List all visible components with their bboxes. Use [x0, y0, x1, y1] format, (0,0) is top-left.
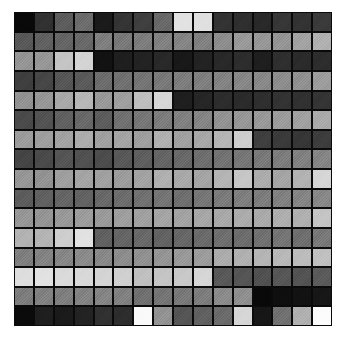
heatmap-cell — [234, 268, 252, 286]
heatmap-cell — [154, 170, 172, 188]
heatmap-cell — [174, 170, 192, 188]
heatmap-cell — [293, 52, 311, 70]
heatmap-cell — [95, 131, 113, 149]
heatmap-cell — [154, 150, 172, 168]
heatmap-cell — [313, 268, 331, 286]
heatmap-cell — [55, 209, 73, 227]
heatmap-cell — [214, 229, 232, 247]
heatmap-cell — [15, 170, 33, 188]
heatmap-cell — [75, 92, 93, 110]
heatmap-cell — [273, 111, 291, 129]
heatmap-cell — [75, 111, 93, 129]
heatmap-cell — [273, 307, 291, 325]
heatmap-cell — [15, 52, 33, 70]
heatmap-cell — [254, 190, 272, 208]
heatmap-cell — [114, 52, 132, 70]
heatmap-cell — [273, 170, 291, 188]
heatmap-cell — [273, 229, 291, 247]
heatmap-cell — [154, 268, 172, 286]
heatmap-cell — [313, 209, 331, 227]
heatmap-cell — [254, 52, 272, 70]
heatmap-cell — [273, 288, 291, 306]
heatmap-cell — [174, 92, 192, 110]
heatmap-cell — [194, 92, 212, 110]
heatmap-cell — [214, 307, 232, 325]
heatmap-cell — [254, 288, 272, 306]
heatmap-cell — [15, 72, 33, 90]
heatmap-cell — [293, 92, 311, 110]
heatmap-cell — [234, 209, 252, 227]
heatmap-cell — [55, 111, 73, 129]
heatmap-cell — [95, 307, 113, 325]
heatmap-cell — [273, 209, 291, 227]
heatmap-cell — [293, 111, 311, 129]
heatmap-cell — [214, 268, 232, 286]
heatmap-cell — [214, 190, 232, 208]
heatmap-cell — [55, 170, 73, 188]
heatmap-cell — [154, 249, 172, 267]
heatmap-cell — [75, 288, 93, 306]
heatmap-cell — [134, 33, 152, 51]
heatmap-cell — [254, 229, 272, 247]
heatmap-cell — [55, 307, 73, 325]
heatmap-cell — [134, 229, 152, 247]
heatmap-cell — [214, 33, 232, 51]
heatmap-cell — [214, 72, 232, 90]
heatmap-cell — [114, 229, 132, 247]
heatmap-cell — [15, 229, 33, 247]
heatmap-cell — [313, 111, 331, 129]
heatmap-cell — [194, 209, 212, 227]
heatmap-cell — [174, 150, 192, 168]
heatmap-cell — [174, 209, 192, 227]
heatmap-cell — [214, 52, 232, 70]
heatmap-cell — [293, 190, 311, 208]
heatmap-cell — [95, 52, 113, 70]
heatmap-cell — [273, 150, 291, 168]
heatmap-cell — [194, 307, 212, 325]
heatmap-cell — [95, 170, 113, 188]
heatmap-cell — [293, 72, 311, 90]
heatmap-cell — [293, 249, 311, 267]
heatmap-cell — [194, 190, 212, 208]
heatmap-cell — [35, 111, 53, 129]
heatmap-cell — [55, 13, 73, 31]
heatmap-cell — [293, 209, 311, 227]
heatmap-cell — [75, 190, 93, 208]
heatmap-cell — [273, 249, 291, 267]
heatmap-cell — [75, 249, 93, 267]
heatmap-cell — [114, 288, 132, 306]
heatmap-cell — [194, 229, 212, 247]
heatmap-cell — [254, 170, 272, 188]
heatmap-cell — [35, 307, 53, 325]
heatmap-cell — [254, 131, 272, 149]
heatmap-cell — [35, 170, 53, 188]
heatmap-cell — [134, 307, 152, 325]
heatmap-cell — [75, 150, 93, 168]
heatmap-cell — [55, 288, 73, 306]
heatmap-cell — [234, 92, 252, 110]
heatmap-cell — [95, 150, 113, 168]
heatmap-cell — [174, 190, 192, 208]
heatmap-cell — [313, 190, 331, 208]
heatmap-cell — [293, 150, 311, 168]
heatmap-cell — [35, 33, 53, 51]
heatmap-cell — [313, 131, 331, 149]
heatmap-cell — [273, 72, 291, 90]
heatmap-cell — [75, 13, 93, 31]
heatmap-cell — [194, 72, 212, 90]
heatmap-cell — [194, 111, 212, 129]
heatmap-cell — [114, 170, 132, 188]
heatmap-cell — [134, 249, 152, 267]
heatmap-cell — [194, 52, 212, 70]
heatmap-cell — [254, 268, 272, 286]
heatmap-cell — [154, 92, 172, 110]
heatmap-cell — [55, 33, 73, 51]
heatmap-cell — [15, 249, 33, 267]
heatmap-cell — [15, 307, 33, 325]
heatmap-cell — [313, 150, 331, 168]
heatmap-cell — [95, 72, 113, 90]
heatmap-cell — [194, 33, 212, 51]
heatmap-cell — [234, 111, 252, 129]
heatmap-cell — [35, 131, 53, 149]
heatmap-cell — [15, 131, 33, 149]
